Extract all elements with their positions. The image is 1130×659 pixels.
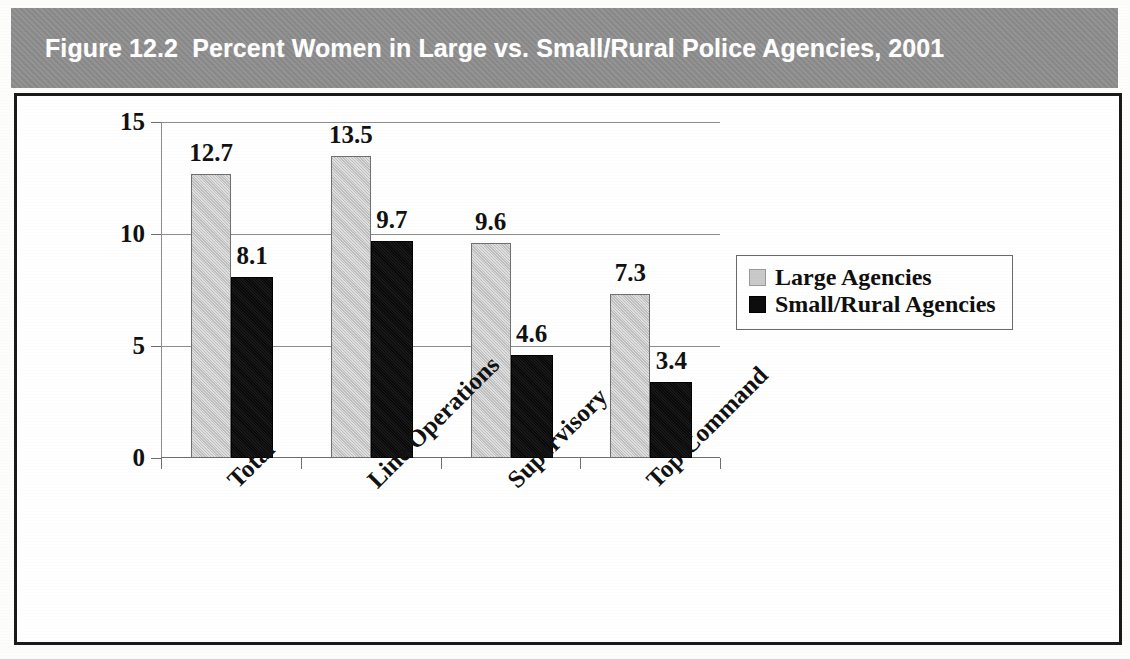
- bar-large-agencies: [331, 156, 371, 458]
- bar-value-label: 8.1: [236, 242, 267, 270]
- gridline: [161, 234, 720, 235]
- bar-large-agencies: [191, 174, 231, 458]
- bar-value-label: 9.6: [475, 208, 506, 236]
- bar-value-label: 3.4: [656, 347, 687, 375]
- bar-value-label: 4.6: [516, 320, 547, 348]
- x-tick-mark: [580, 458, 581, 469]
- plot-area: 051015 12.78.113.59.79.64.67.33.4 TotalL…: [161, 122, 720, 458]
- figure-page: Figure 12.2 Percent Women in Large vs. S…: [0, 0, 1130, 659]
- bar-large-agencies: [471, 243, 511, 458]
- y-tick-label: 15: [120, 108, 145, 136]
- legend-item[interactable]: Small/Rural Agencies: [749, 292, 998, 318]
- figure-title: Figure 12.2 Percent Women in Large vs. S…: [45, 34, 944, 63]
- legend-swatch-small-icon: [749, 296, 766, 313]
- bar-small-rural-agencies: [371, 241, 413, 458]
- chart-frame: 051015 12.78.113.59.79.64.67.33.4 TotalL…: [14, 93, 1122, 645]
- x-tick-mark: [161, 458, 162, 469]
- chart-legend: Large AgenciesSmall/Rural Agencies: [736, 255, 1013, 330]
- y-tick-label: 5: [133, 332, 146, 360]
- legend-swatch-large-icon: [749, 269, 766, 286]
- y-tick-mark: [151, 234, 161, 235]
- bar-value-label: 7.3: [615, 259, 646, 287]
- legend-label: Small/Rural Agencies: [775, 292, 996, 318]
- bar-large-agencies: [610, 294, 650, 458]
- figure-title-bar: Figure 12.2 Percent Women in Large vs. S…: [11, 8, 1118, 88]
- y-axis-line: [161, 122, 162, 458]
- legend-label: Large Agencies: [775, 265, 932, 291]
- y-tick-label: 10: [120, 220, 145, 248]
- y-tick-mark: [151, 346, 161, 347]
- y-tick-mark: [151, 122, 161, 123]
- x-tick-mark: [441, 458, 442, 469]
- gridline: [161, 122, 720, 123]
- bar-value-label: 13.5: [329, 121, 373, 149]
- bar-value-label: 9.7: [376, 206, 407, 234]
- x-tick-mark: [720, 458, 721, 469]
- y-tick-label: 0: [133, 444, 146, 472]
- y-tick-mark: [151, 458, 161, 459]
- legend-item[interactable]: Large Agencies: [749, 265, 998, 291]
- bar-small-rural-agencies: [231, 277, 273, 458]
- x-tick-mark: [301, 458, 302, 469]
- bar-value-label: 12.7: [189, 139, 233, 167]
